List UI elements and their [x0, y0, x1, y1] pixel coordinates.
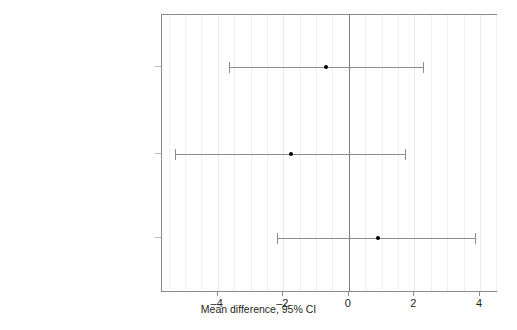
gridline — [267, 15, 268, 291]
ci-upper-cap — [405, 149, 406, 160]
gridline — [431, 15, 432, 291]
zero-reference-line — [349, 15, 350, 291]
x-axis-tick — [413, 292, 414, 296]
x-axis-tick — [479, 292, 480, 296]
ci-lower-cap — [175, 149, 176, 160]
estimate-point — [324, 65, 328, 69]
gridline — [480, 15, 481, 291]
gridline — [382, 15, 383, 291]
plot-area — [161, 14, 497, 292]
gridline — [414, 15, 415, 291]
gridline — [332, 15, 333, 291]
gridline — [185, 15, 186, 291]
gridline — [283, 15, 284, 291]
estimate-point — [376, 236, 380, 240]
gridline — [234, 15, 235, 291]
x-axis-tick — [282, 292, 283, 296]
x-axis-tick — [217, 292, 218, 296]
gridline — [300, 15, 301, 291]
ci-lower-cap — [229, 62, 230, 73]
gridline — [496, 15, 497, 291]
ci-upper-cap — [475, 233, 476, 244]
gridline — [398, 15, 399, 291]
x-axis-title: Mean difference, 95% CI — [0, 303, 517, 315]
ci-upper-cap — [423, 62, 424, 73]
gridline — [218, 15, 219, 291]
gridline — [464, 15, 465, 291]
gridline — [316, 15, 317, 291]
x-axis-tick — [348, 292, 349, 296]
gridline — [447, 15, 448, 291]
gridline — [365, 15, 366, 291]
forest-plot-figure: omni vs avg of dietsomni vs avg of carni… — [0, 0, 517, 330]
ci-lower-cap — [277, 233, 278, 244]
gridline — [169, 15, 170, 291]
gridline — [251, 15, 252, 291]
gridline — [201, 15, 202, 291]
estimate-point — [289, 152, 293, 156]
